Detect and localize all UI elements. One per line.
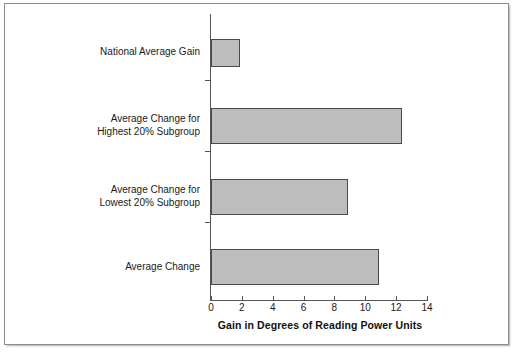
x-axis-label-2: 2 [232,302,252,314]
x-axis-tick-14 [427,296,428,301]
x-axis-title: Gain in Degrees of Reading Power Units [155,319,485,331]
x-axis-tick-12 [396,296,397,301]
y-axis-tick [205,151,211,152]
bar-label-average-change-lowest-20: Average Change for Lowest 20% Subgroup [20,184,200,209]
bar-label-line-1: Average Change for [20,184,200,197]
bar-label-line-2: Highest 20% Subgroup [20,126,200,139]
bar-label-line-1: Average Change [125,261,200,272]
x-axis-tick-6 [304,296,305,301]
bar-label-average-change: Average Change [20,261,200,274]
bar-average-change [211,249,379,285]
bar-label-line-2: Lowest 20% Subgroup [20,197,200,210]
x-axis-tick-10 [365,296,366,301]
x-axis-label-12: 12 [386,302,406,314]
x-axis-label-4: 4 [263,302,283,314]
x-axis-label-10: 10 [355,302,375,314]
y-axis-tick [205,222,211,223]
bar-label-national-average-gain: National Average Gain [20,46,200,59]
x-axis-tick-8 [334,296,335,301]
x-axis-tick-2 [242,296,243,301]
bar-label-line-1: National Average Gain [100,46,200,57]
x-axis-tick-0 [211,296,212,301]
bar-label-line-1: Average Change for [20,113,200,126]
bar-national-average-gain [211,39,240,67]
x-axis-label-14: 14 [417,302,437,314]
x-axis-tick-4 [273,296,274,301]
bar-chart-plot-area: National Average Gain Average Change for… [5,4,510,346]
x-axis-label-0: 0 [201,302,221,314]
bar-average-change-lowest-20 [211,179,348,215]
y-axis-tick [205,80,211,81]
bar-average-change-highest-20 [211,108,402,144]
bar-label-average-change-highest-20: Average Change for Highest 20% Subgroup [20,113,200,138]
x-axis-label-6: 6 [294,302,314,314]
x-axis-label-8: 8 [324,302,344,314]
chart-figure: National Average Gain Average Change for… [4,3,509,345]
